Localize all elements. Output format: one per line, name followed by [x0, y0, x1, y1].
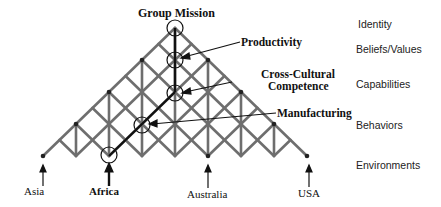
env-usa: USA [298, 187, 320, 199]
cross-cultural-label-line1: Cross-Cultural [261, 68, 335, 80]
env-australia: Australia [187, 188, 227, 200]
env-asia: Asia [24, 185, 44, 197]
level-behaviors: Behaviors [356, 119, 403, 131]
env-africa: Africa [89, 185, 119, 197]
level-identity: Identity [358, 18, 392, 30]
level-environments: Environments [356, 159, 420, 171]
productivity-label: Productivity [241, 36, 302, 48]
manufacturing-label: Manufacturing [277, 107, 352, 119]
level-capabilities: Capabilities [356, 78, 410, 90]
cross-cultural-label-line2: Competence [268, 80, 329, 92]
group-mission-label: Group Mission [138, 6, 215, 21]
lattice-diagram [0, 0, 441, 207]
level-beliefs-values: Beliefs/Values [356, 43, 422, 55]
